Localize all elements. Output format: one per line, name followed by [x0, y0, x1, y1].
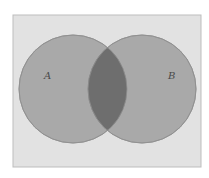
- set-a-label: A: [43, 70, 51, 81]
- venn-diagram: A B: [0, 0, 209, 178]
- set-b-label: B: [167, 70, 175, 81]
